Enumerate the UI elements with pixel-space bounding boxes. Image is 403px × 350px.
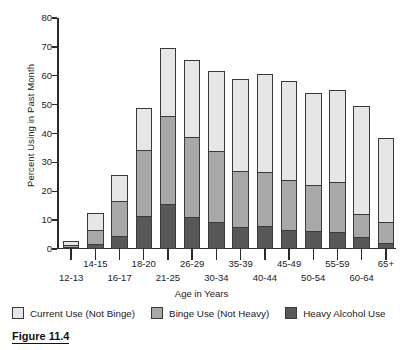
bar-segment-binge-14-15 [87, 230, 104, 246]
bar-30-34 [208, 69, 225, 249]
bar-segment-binge-30-34 [208, 151, 225, 222]
x-tick-30-34 [216, 248, 217, 260]
x-tick-label-21-25: 21-25 [156, 272, 180, 283]
bar-segment-current-30-34 [208, 71, 225, 153]
bar-segment-current-45-49 [281, 81, 298, 181]
y-tick-20 [52, 191, 57, 192]
y-tick-60 [52, 75, 57, 76]
bar-segment-binge-55-59 [329, 182, 346, 232]
bar-segment-current-40-44 [257, 74, 274, 172]
bar-segment-heavy-40-44 [257, 226, 274, 249]
legend-item-binge: Binge Use (Not Heavy) [151, 307, 269, 319]
bar-segment-heavy-50-54 [305, 231, 322, 249]
bar-segment-heavy-26-29 [184, 217, 201, 249]
x-tick-50-54 [313, 248, 314, 260]
chart-legend: Current Use (Not Binge)Binge Use (Not He… [12, 303, 397, 323]
bar-segment-heavy-55-59 [329, 232, 346, 249]
x-tick-label-35-39: 35-39 [228, 258, 252, 269]
bar-segment-binge-16-17 [111, 201, 128, 237]
x-tick-label-55-59: 55-59 [325, 258, 349, 269]
legend-item-current: Current Use (Not Binge) [12, 307, 135, 319]
y-tick-label-30: 30 [30, 157, 52, 167]
y-tick-label-50: 50 [30, 100, 52, 110]
bar-segment-current-35-39 [232, 79, 249, 172]
legend-label-heavy: Heavy Alcohol Use [303, 308, 385, 319]
bar-segment-binge-45-49 [281, 180, 298, 231]
y-tick-label-70: 70 [30, 42, 52, 52]
bar-14-15 [87, 211, 104, 249]
x-tick-label-65+: 65+ [378, 258, 394, 269]
y-axis-line [57, 18, 59, 249]
figure-caption: Figure 11.4 [12, 330, 69, 344]
bar-16-17 [111, 173, 128, 249]
figure-container: Percent Using in Past Month 010203040506… [0, 0, 403, 350]
legend-item-heavy: Heavy Alcohol Use [285, 307, 385, 319]
bar-50-54 [305, 91, 322, 249]
y-axis-tick-labels: 01020304050607080 [28, 18, 52, 249]
y-tick-50 [52, 104, 57, 105]
bar-segment-binge-60-64 [353, 214, 370, 239]
bar-segment-binge-26-29 [184, 137, 201, 218]
y-tick-30 [52, 162, 57, 163]
legend-swatch-current-icon [12, 307, 24, 319]
y-tick-80 [52, 17, 57, 18]
bar-segment-heavy-30-34 [208, 222, 225, 249]
bar-segment-heavy-21-25 [160, 204, 177, 249]
bar-segment-current-55-59 [329, 90, 346, 183]
y-tick-0 [52, 248, 57, 249]
bar-18-20 [136, 106, 153, 250]
x-tick-label-40-44: 40-44 [253, 272, 277, 283]
bar-segment-current-60-64 [353, 106, 370, 215]
bar-segment-heavy-18-20 [136, 216, 153, 249]
legend-label-current: Current Use (Not Binge) [30, 308, 135, 319]
bar-segment-heavy-45-49 [281, 230, 298, 249]
bar-40-44 [257, 72, 274, 249]
x-tick-label-14-15: 14-15 [83, 258, 107, 269]
bar-segment-current-50-54 [305, 93, 322, 186]
x-tick-label-45-49: 45-49 [277, 258, 301, 269]
bar-65+ [378, 136, 395, 249]
bar-segment-binge-21-25 [160, 116, 177, 206]
plot-area [57, 18, 396, 249]
y-tick-70 [52, 46, 57, 47]
bar-segment-current-65+ [378, 138, 395, 223]
x-tick-60-64 [361, 248, 362, 260]
x-tick-label-30-34: 30-34 [204, 272, 228, 283]
bar-segment-current-14-15 [87, 213, 104, 230]
bar-segment-current-26-29 [184, 60, 201, 139]
bar-45-49 [281, 79, 298, 249]
bar-segment-binge-18-20 [136, 150, 153, 217]
y-tick-label-10: 10 [30, 215, 52, 225]
y-tick-label-20: 20 [30, 186, 52, 196]
bar-26-29 [184, 58, 201, 249]
bar-segment-heavy-35-39 [232, 227, 249, 249]
y-tick-label-0: 0 [30, 244, 52, 254]
bar-60-64 [353, 104, 370, 249]
legend-swatch-binge-icon [151, 307, 163, 319]
x-tick-12-13 [70, 248, 71, 260]
bar-segment-binge-35-39 [232, 171, 249, 228]
y-tick-label-60: 60 [30, 71, 52, 81]
y-tick-label-40: 40 [30, 129, 52, 139]
bar-55-59 [329, 88, 346, 249]
x-tick-label-12-13: 12-13 [59, 272, 83, 283]
bar-segment-current-18-20 [136, 108, 153, 152]
bar-segment-binge-65+ [378, 222, 395, 244]
bar-segment-binge-50-54 [305, 185, 322, 232]
bar-segment-current-21-25 [160, 48, 177, 116]
bar-21-25 [160, 46, 177, 249]
x-tick-label-16-17: 16-17 [107, 272, 131, 283]
x-tick-label-18-20: 18-20 [132, 258, 156, 269]
x-tick-21-25 [167, 248, 168, 260]
y-tick-label-80: 80 [30, 13, 52, 23]
legend-swatch-heavy-icon [285, 307, 297, 319]
x-axis-title: Age in Years [0, 288, 403, 299]
bar-35-39 [232, 77, 249, 249]
x-tick-16-17 [119, 248, 120, 260]
x-tick-40-44 [264, 248, 265, 260]
bar-segment-current-16-17 [111, 175, 128, 202]
x-tick-label-26-29: 26-29 [180, 258, 204, 269]
y-tick-10 [52, 219, 57, 220]
x-tick-label-50-54: 50-54 [301, 272, 325, 283]
x-tick-label-60-64: 60-64 [350, 272, 374, 283]
